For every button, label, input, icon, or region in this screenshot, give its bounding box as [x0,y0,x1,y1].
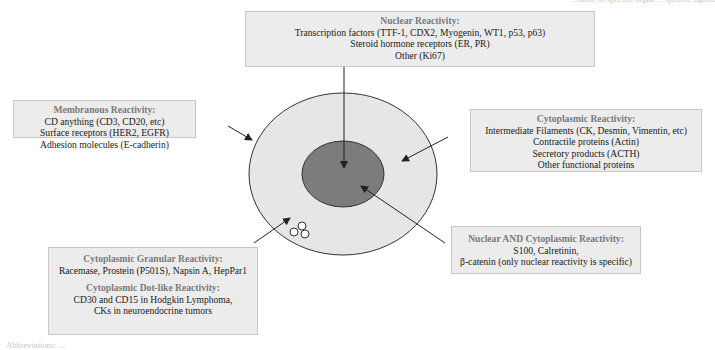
cytoplasmic-line-4: Other functional proteins [471,159,701,171]
membranous-line-1: CD anything (CD3, CD20, etc) [14,116,195,128]
cytoplasmic-line-3: Secretory products (ACTH) [471,148,701,160]
nucleus [302,141,384,207]
cytoplasmic-line-2: Contractile proteins (Actin) [471,136,701,148]
arrow-membranous [228,126,252,140]
nuclear-and-cytoplasmic-line-1: S100, Calretinin, [452,245,640,257]
membranous-line-2: Surface receptors (HER2, EGFR) [14,127,195,139]
nuclear-line-2: Steroid hormone receptors (ER, PR) [246,38,594,50]
nuclear-and-cytoplasmic-title: Nuclear AND Cytoplasmic Reactivity: [452,233,640,245]
membranous-line-3: Adhesion molecules (E-cadherin) [14,139,195,151]
granular-and-dotlike-reactivity-box: Cytoplasmic Granular Reactivity: Racemas… [48,247,258,335]
nuclear-line-1: Transcription factors (TTF-1, CDX2, Myog… [246,27,594,39]
truncated-caption-bottom: Abbreviations: ... [6,340,65,350]
membranous-reactivity-box: Membranous Reactivity: CD anything (CD3,… [13,100,196,138]
nuclear-line-3: Other (Ki67) [246,50,594,62]
membranous-reactivity-title: Membranous Reactivity: [14,104,195,116]
granular-reactivity-title: Cytoplasmic Granular Reactivity: [49,253,257,265]
cytoplasmic-reactivity-title: Cytoplasmic Reactivity: [471,113,701,125]
dotlike-line-1: CD30 and CD15 in Hodgkin Lymphoma, [49,294,257,306]
granular-line-1: Racemase, Prostein (P501S), Napsin A, He… [49,265,257,277]
dotlike-reactivity-title: Cytoplasmic Dot-like Reactivity: [49,282,257,294]
dotlike-line-2: CKs in neuroendocrine tumors [49,305,257,317]
nuclear-reactivity-title: Nuclear Reactivity: [246,15,594,27]
cytoplasmic-line-1: Intermediate Filaments (CK, Desmin, Vime… [471,125,701,137]
cytoplasmic-reactivity-box: Cytoplasmic Reactivity: Intermediate Fil… [470,109,702,172]
nuclear-and-cytoplasmic-reactivity-box: Nuclear AND Cytoplasmic Reactivity: S100… [451,226,641,274]
nuclear-reactivity-box: Nuclear Reactivity: Transcription factor… [245,11,595,67]
nuclear-and-cytoplasmic-line-2: β-catenin (only nuclear reactivity is sp… [452,256,640,268]
